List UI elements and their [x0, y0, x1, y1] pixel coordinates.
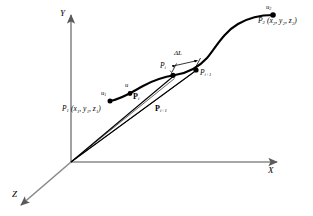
z-axis-label: Z [12, 190, 17, 199]
parametric-curve [110, 15, 273, 101]
parameter-u1-label: u1 [101, 90, 106, 97]
parameter-u1-sub: 1 [104, 92, 106, 97]
point-p1-label: P1(x₁, y₁, z₁) [62, 105, 101, 114]
y-axis-label: Y [60, 9, 65, 18]
position-vector-shadow [71, 73, 194, 163]
curve-point-pi [170, 73, 175, 78]
figure-canvas: Y X Z u1 u u2 P1(x₁, y₁, z₁) P2(x₂, y₂, … [0, 0, 313, 216]
point-p2-coords: (x₂, y₂, z₂) [265, 16, 297, 25]
vector-pi-plus-1-label: Pi+1 [155, 105, 167, 114]
curve-point-p1 [108, 99, 113, 104]
vector-pi-subscript: i [138, 96, 139, 101]
point-pi-plus-1-subscript: i+1 [205, 72, 212, 77]
vector-pi-label: Pi [133, 93, 139, 102]
point-p2-label: P2(x₂, y₂, z₂) [258, 17, 297, 26]
x-axis-label: X [268, 166, 274, 175]
point-pi-subscript: i [165, 65, 166, 70]
parameter-u2-sub: 2 [269, 6, 271, 11]
parameter-u-label: u [125, 82, 128, 89]
point-pi-label: Pi [160, 62, 166, 71]
point-pi-plus-1-label: Pi+1 [200, 69, 211, 78]
point-p1-coords: (x₁, y₁, z₁) [69, 104, 101, 113]
delta-l-label: ΔL [174, 50, 182, 57]
curve-point-pi-plus-1 [193, 67, 198, 72]
vector-pi-plus-1-subscript: i+1 [160, 108, 167, 113]
z-axis [21, 162, 71, 205]
curve-point-u [128, 91, 133, 96]
parameter-u2-label: u2 [266, 4, 271, 11]
position-vector-pi [71, 77, 173, 162]
